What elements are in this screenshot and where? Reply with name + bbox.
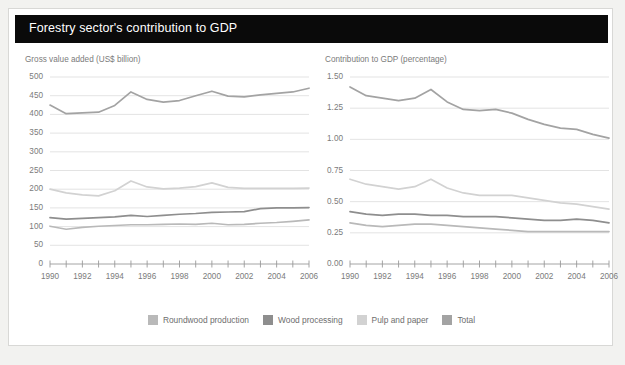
y-axis-tick-label: 400 (17, 109, 43, 118)
legend-swatch-icon (442, 315, 452, 325)
series-line (50, 181, 309, 196)
y-axis-tick-label: 250 (17, 166, 43, 175)
legend-swatch-icon (148, 315, 158, 325)
x-axis-tick-label: 1990 (35, 272, 65, 281)
gridlines (350, 77, 609, 233)
x-axis-tick-label: 1992 (367, 272, 397, 281)
y-axis-tick-label: 1.00 (317, 134, 343, 143)
series-line (50, 88, 309, 113)
x-axis-tick-label: 1994 (400, 272, 430, 281)
chart-right-plot-area (317, 71, 617, 297)
x-axis-tick-label: 1996 (432, 272, 462, 281)
chart-right-axis-title: Contribution to GDP (percentage) (325, 55, 447, 64)
title-bar: Forestry sector's contribution to GDP (15, 15, 608, 43)
y-axis-tick-label: 100 (17, 222, 43, 231)
chart-legend: Roundwood productionWood processingPulp … (9, 309, 614, 331)
y-axis-tick-label: 500 (17, 72, 43, 81)
series-line (350, 87, 609, 138)
legend-item-label: Wood processing (278, 315, 343, 325)
series-line (50, 208, 309, 220)
y-axis-tick-label: 0.50 (317, 197, 343, 206)
y-axis-tick-label: 1.50 (317, 72, 343, 81)
chart-svg (317, 71, 617, 297)
x-axis-tick-label: 2002 (229, 272, 259, 281)
series-line (50, 220, 309, 229)
page-title: Forestry sector's contribution to GDP (29, 21, 237, 35)
y-axis-tick-label: 0.00 (317, 259, 343, 268)
chart-svg (17, 71, 317, 297)
x-axis-tick-label: 2004 (262, 272, 292, 281)
legend-item[interactable]: Wood processing (263, 315, 343, 325)
x-axis-tick-label: 1990 (335, 272, 365, 281)
y-axis-tick-label: 450 (17, 91, 43, 100)
series-line (350, 223, 609, 232)
legend-item-label: Roundwood production (163, 315, 249, 325)
series-line (350, 179, 609, 209)
x-axis-tick-label: 1996 (132, 272, 162, 281)
gridlines (50, 77, 309, 245)
x-axis-tick-label: 1998 (465, 272, 495, 281)
legend-item[interactable]: Total (442, 315, 475, 325)
x-axis-tick-label: 2002 (529, 272, 559, 281)
legend-item-label: Total (457, 315, 475, 325)
legend-item[interactable]: Roundwood production (148, 315, 249, 325)
series-line (350, 212, 609, 223)
y-axis-tick-label: 300 (17, 147, 43, 156)
legend-item[interactable]: Pulp and paper (357, 315, 429, 325)
y-axis-tick-label: 200 (17, 184, 43, 193)
x-axis-tick-label: 2006 (594, 272, 624, 281)
x-axis-tick-label: 2004 (562, 272, 592, 281)
x-axis (350, 261, 609, 268)
x-axis-tick-label: 1992 (67, 272, 97, 281)
y-axis-tick-label: 0 (17, 259, 43, 268)
y-axis-tick-label: 150 (17, 203, 43, 212)
page-background: Forestry sector's contribution to GDP Gr… (0, 0, 625, 365)
y-axis-tick-label: 50 (17, 240, 43, 249)
y-axis-tick-label: 1.25 (317, 103, 343, 112)
y-axis-tick-label: 0.75 (317, 166, 343, 175)
legend-item-label: Pulp and paper (372, 315, 429, 325)
x-axis-tick-label: 2000 (497, 272, 527, 281)
x-axis-tick-label: 2000 (197, 272, 227, 281)
legend-swatch-icon (263, 315, 273, 325)
chart-left-axis-title: Gross value added (US$ billion) (25, 55, 141, 64)
legend-swatch-icon (357, 315, 367, 325)
x-axis (50, 261, 309, 268)
chart-left-plot-area (17, 71, 317, 297)
y-axis-tick-label: 350 (17, 128, 43, 137)
chart-card: Forestry sector's contribution to GDP Gr… (8, 8, 613, 346)
y-axis-tick-label: 0.25 (317, 228, 343, 237)
x-axis-tick-label: 1998 (165, 272, 195, 281)
x-axis-tick-label: 1994 (100, 272, 130, 281)
